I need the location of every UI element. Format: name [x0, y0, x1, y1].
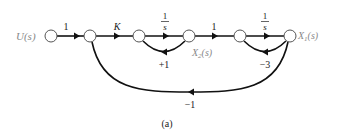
figure-caption: (a)	[161, 118, 172, 130]
node-u	[45, 30, 57, 42]
state-label-x1: X1(s)	[297, 30, 319, 43]
gain-label-k: K	[113, 21, 122, 32]
gain-label-minus-one: −1	[185, 99, 196, 110]
feedback-x1-to-n4: −3	[244, 41, 286, 70]
gain-denominator: s	[263, 22, 267, 32]
node-x1	[284, 30, 296, 42]
gain-label-minus-three: −3	[260, 59, 271, 70]
edge-x2-to-n4: 1	[195, 21, 234, 40]
node-2	[133, 30, 145, 42]
edge-n2-to-x2: 1 s	[145, 11, 183, 40]
gain-numerator: 1	[263, 11, 268, 21]
gain-numerator: 1	[163, 11, 168, 21]
node-1	[84, 30, 96, 42]
edge-n1-to-n2: K	[96, 21, 133, 40]
feedback-x2-to-n2: +1	[143, 41, 185, 70]
state-label-x2: X2(s)	[191, 47, 213, 60]
gain-denominator: s	[163, 22, 167, 32]
gain-label-plus-one: +1	[159, 59, 170, 70]
edge-u-to-n1: 1	[57, 21, 84, 40]
signal-flow-diagram: U(s) 1 K 1 s 1 1 s +1 −3	[0, 0, 339, 135]
feedback-x1-to-n1: −1	[92, 42, 288, 110]
node-4	[234, 30, 246, 42]
node-x2	[183, 30, 195, 42]
gain-label: 1	[64, 21, 69, 32]
edge-n4-to-x1: 1 s	[246, 11, 284, 40]
input-label-u: U(s)	[16, 30, 36, 43]
gain-label: 1	[212, 21, 217, 32]
